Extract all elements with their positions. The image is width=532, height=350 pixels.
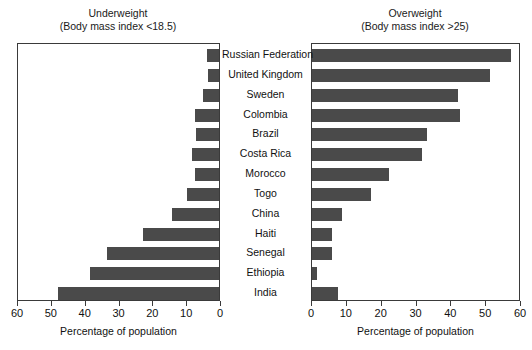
axis-tick	[381, 301, 382, 306]
bar-row	[18, 225, 219, 245]
axis-tick	[220, 301, 221, 306]
category-label-senegal: Senegal	[222, 246, 309, 258]
bar-row	[18, 125, 219, 145]
bar-series-overweight	[312, 44, 519, 300]
category-label-costa-rica: Costa Rica	[222, 147, 309, 159]
bar-brazil-overweight	[312, 128, 427, 141]
axis-tick-label: 30	[112, 307, 124, 320]
bar-senegal-underweight	[107, 247, 219, 260]
bar-togo-underweight	[187, 188, 219, 201]
category-label-sweden: Sweden	[222, 88, 309, 100]
axis-tick	[311, 301, 312, 306]
bar-row	[312, 86, 519, 106]
axis-tick	[119, 301, 120, 306]
panel-title-overweight-line1: Overweight	[311, 7, 519, 20]
bar-brazil-underweight	[196, 128, 219, 141]
axis-tick	[186, 301, 187, 306]
bar-row	[312, 244, 519, 264]
axis-tick-label: 20	[375, 307, 387, 320]
bar-morocco-overweight	[312, 168, 389, 181]
bar-row	[312, 165, 519, 185]
axis-tick-label: 0	[217, 307, 223, 320]
bar-india-underweight	[58, 287, 219, 300]
axis-tick	[51, 301, 52, 306]
bar-russian-federation-overweight	[312, 49, 511, 62]
figure-container: Underweight (Body mass index <18.5) Over…	[0, 0, 532, 350]
panel-title-overweight: Overweight (Body mass index >25)	[311, 7, 519, 33]
bar-togo-overweight	[312, 188, 371, 201]
axis-tick	[485, 301, 486, 306]
x-axis-label-underweight: Percentage of population	[17, 325, 220, 338]
bar-row	[18, 46, 219, 66]
plot-area-underweight	[17, 43, 220, 301]
axis-tick-label: 20	[146, 307, 158, 320]
panel-title-underweight-line1: Underweight	[17, 7, 219, 20]
axis-tick	[17, 301, 18, 306]
bar-haiti-underweight	[143, 228, 219, 241]
bar-china-underweight	[172, 208, 219, 221]
bar-row	[18, 185, 219, 205]
bar-row	[312, 46, 519, 66]
category-label-haiti: Haiti	[222, 227, 309, 239]
category-label-india: India	[222, 286, 309, 298]
bar-row	[18, 86, 219, 106]
category-label-united-kingdom: United Kingdom	[222, 68, 309, 80]
axis-tick	[520, 301, 521, 306]
axis-tick-label: 50	[45, 307, 57, 320]
bar-morocco-underweight	[195, 168, 219, 181]
axis-tick-label: 10	[180, 307, 192, 320]
category-label-colombia: Colombia	[222, 108, 309, 120]
axis-tick-label: 40	[79, 307, 91, 320]
bar-row	[18, 106, 219, 126]
axis-tick-label: 30	[409, 307, 421, 320]
bar-united-kingdom-overweight	[312, 69, 490, 82]
axis-tick	[450, 301, 451, 306]
panel-title-overweight-line2: (Body mass index >25)	[311, 20, 519, 33]
bar-series-underweight	[18, 44, 219, 300]
bar-row	[312, 205, 519, 225]
bar-row	[312, 264, 519, 284]
bar-china-overweight	[312, 208, 342, 221]
bar-row	[312, 145, 519, 165]
bar-haiti-overweight	[312, 228, 332, 241]
bar-row	[312, 125, 519, 145]
bar-sweden-overweight	[312, 89, 458, 102]
bar-united-kingdom-underweight	[208, 69, 219, 82]
bar-costa-rica-overweight	[312, 148, 422, 161]
axis-tick-label: 40	[444, 307, 456, 320]
panel-title-underweight-line2: (Body mass index <18.5)	[17, 20, 219, 33]
bar-india-overweight	[312, 287, 338, 300]
bar-row	[312, 106, 519, 126]
panel-title-underweight: Underweight (Body mass index <18.5)	[17, 7, 219, 33]
bar-costa-rica-underweight	[192, 148, 219, 161]
bar-row	[312, 225, 519, 245]
axis-tick	[346, 301, 347, 306]
axis-tick-label: 10	[340, 307, 352, 320]
bar-senegal-overweight	[312, 247, 332, 260]
bar-sweden-underweight	[203, 89, 219, 102]
bar-russian-federation-underweight	[207, 49, 219, 62]
bar-row	[18, 145, 219, 165]
bar-row	[18, 205, 219, 225]
bar-row	[18, 165, 219, 185]
plot-area-overweight	[311, 43, 520, 301]
x-axis-overweight: 0102030405060	[311, 301, 520, 327]
category-label-togo: Togo	[222, 187, 309, 199]
category-label-brazil: Brazil	[222, 127, 309, 139]
bar-ethiopia-overweight	[312, 267, 317, 280]
category-label-morocco: Morocco	[222, 167, 309, 179]
bar-row	[18, 66, 219, 86]
axis-tick-label: 60	[11, 307, 23, 320]
axis-tick	[152, 301, 153, 306]
category-label-russian-federation: Russian Federation	[222, 48, 309, 60]
x-axis-underweight: 6050403020100	[17, 301, 220, 327]
bar-ethiopia-underweight	[90, 267, 219, 280]
bar-row	[18, 244, 219, 264]
x-axis-label-overweight: Percentage of population	[311, 325, 520, 338]
category-label-ethiopia: Ethiopia	[222, 266, 309, 278]
bar-row	[312, 185, 519, 205]
axis-tick	[416, 301, 417, 306]
category-label-china: China	[222, 207, 309, 219]
axis-tick-label: 0	[308, 307, 314, 320]
bar-row	[18, 264, 219, 284]
